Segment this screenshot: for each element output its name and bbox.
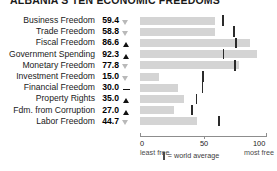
world-average-tick-icon [163, 152, 165, 160]
row-value: 59.4 [97, 15, 119, 26]
row-value: 30.0 [97, 82, 119, 93]
row-plot [140, 82, 267, 93]
trend-down-icon [123, 116, 135, 127]
trend-flat-icon [123, 82, 135, 93]
value-bar [140, 61, 239, 69]
axis-label-100: 100 [253, 139, 265, 148]
trend-up-icon [123, 49, 135, 60]
value-bar [140, 28, 215, 36]
world-average-marker [202, 71, 204, 82]
axis-label-50: 50 [200, 139, 208, 148]
row-value: 27.0 [97, 105, 119, 116]
row-label: Fdm. from Corruption [0, 105, 95, 116]
chart-row: Fiscal Freedom86.6 [0, 37, 277, 48]
row-label: Trade Freedom [0, 26, 95, 37]
chart-row: Investment Freedom15.0 [0, 71, 277, 82]
axis-cap-0 [140, 133, 141, 137]
value-bar [140, 106, 174, 114]
triangle-down-icon [123, 76, 129, 81]
row-label: Investment Freedom [0, 71, 95, 82]
economic-freedoms-chart: ALBANIA'S TEN ECONOMIC FREEDOMS Business… [0, 0, 277, 171]
world-average-marker [233, 26, 235, 37]
row-plot [140, 15, 267, 26]
chart-row: Financial Freedom30.0 [0, 82, 277, 93]
legend-label: = world average [168, 151, 219, 160]
trend-up-icon [123, 93, 135, 104]
row-plot [140, 26, 267, 37]
row-value: 35.0 [97, 93, 119, 104]
row-value: 92.3 [97, 49, 119, 60]
row-value: 77.8 [97, 60, 119, 71]
axis-cap-100 [266, 133, 267, 137]
value-bar [140, 17, 215, 25]
row-plot [140, 105, 267, 116]
value-bar [140, 39, 250, 47]
row-value: 15.0 [97, 71, 119, 82]
trend-down-icon [123, 26, 135, 37]
row-label: Government Spending [0, 49, 95, 60]
trend-up-icon [123, 37, 135, 48]
row-plot [140, 37, 267, 48]
axis-label-0: 0 [140, 139, 144, 148]
chart-row: Monetary Freedom77.8 [0, 60, 277, 71]
chart-title: ALBANIA'S TEN ECONOMIC FREEDOMS [10, 0, 220, 6]
trend-down-icon [123, 15, 135, 26]
triangle-down-icon [123, 121, 129, 126]
dash-icon [123, 89, 130, 91]
world-average-marker [218, 116, 220, 127]
value-bar [140, 50, 257, 58]
triangle-up-icon [123, 54, 129, 59]
world-average-marker [222, 15, 224, 26]
value-bar [140, 73, 159, 81]
trend-down-icon [123, 60, 135, 71]
chart-row: Government Spending92.3 [0, 49, 277, 60]
row-plot [140, 60, 267, 71]
legend: = world average [163, 151, 219, 160]
value-bar [140, 84, 178, 92]
row-label: Property Rights [0, 93, 95, 104]
chart-row: Trade Freedom58.8 [0, 26, 277, 37]
chart-row: Business Freedom59.4 [0, 15, 277, 26]
chart-row: Labor Freedom44.7 [0, 116, 277, 127]
row-value: 44.7 [97, 116, 119, 127]
row-label: Monetary Freedom [0, 60, 95, 71]
row-plot [140, 49, 267, 60]
row-plot [140, 71, 267, 82]
chart-row: Property Rights35.0 [0, 93, 277, 104]
triangle-down-icon [123, 31, 129, 36]
row-label: Labor Freedom [0, 116, 95, 127]
row-label: Financial Freedom [0, 82, 95, 93]
row-plot [140, 116, 267, 127]
chart-rows: Business Freedom59.4Trade Freedom58.8Fis… [0, 15, 277, 127]
chart-row: Fdm. from Corruption27.0 [0, 105, 277, 116]
row-value: 86.6 [97, 37, 119, 48]
world-average-marker [191, 105, 193, 116]
row-label: Business Freedom [0, 15, 95, 26]
triangle-up-icon [123, 110, 129, 115]
world-average-marker [223, 49, 225, 60]
world-average-marker [235, 38, 237, 49]
row-value: 58.8 [97, 26, 119, 37]
world-average-marker [234, 60, 236, 71]
world-average-marker [202, 82, 204, 93]
row-label: Fiscal Freedom [0, 37, 95, 48]
axis-sublabel-most-free: most free [244, 148, 274, 157]
row-plot [140, 93, 267, 104]
value-bar [140, 95, 184, 103]
world-average-marker [196, 94, 198, 105]
triangle-down-icon [123, 20, 129, 25]
value-bar [140, 117, 197, 125]
triangle-up-icon [123, 98, 129, 103]
triangle-up-icon [123, 42, 129, 47]
triangle-down-icon [123, 65, 129, 70]
trend-down-icon [123, 71, 135, 82]
trend-up-icon [123, 105, 135, 116]
